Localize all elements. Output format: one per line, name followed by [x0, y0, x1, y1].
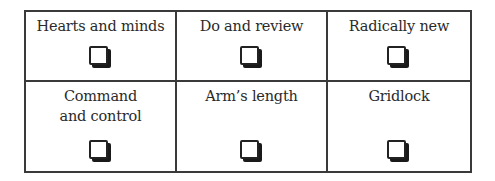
cell-label: Do and review: [177, 16, 326, 36]
cell-label: Command and control: [26, 86, 175, 126]
cell-label: Radically new: [328, 16, 470, 36]
empty-checkbox-icon[interactable]: [387, 46, 406, 65]
cell-arms-length: Arm’s length: [177, 82, 328, 171]
empty-checkbox-icon[interactable]: [387, 140, 406, 159]
cell-radically-new: Radically new: [328, 12, 470, 82]
empty-checkbox-icon[interactable]: [240, 140, 259, 159]
cell-label: Arm’s length: [177, 86, 326, 106]
cell-label: Hearts and minds: [26, 16, 175, 36]
empty-checkbox-icon[interactable]: [89, 140, 108, 159]
cell-gridlock: Gridlock: [328, 82, 470, 171]
cell-command-and-control: Command and control: [26, 82, 177, 171]
empty-checkbox-icon[interactable]: [89, 46, 108, 65]
cell-do-and-review: Do and review: [177, 12, 328, 82]
empty-checkbox-icon[interactable]: [240, 46, 259, 65]
cell-hearts-and-minds: Hearts and minds: [26, 12, 177, 82]
options-grid: Hearts and minds Do and review Radically…: [24, 10, 472, 173]
cell-label: Gridlock: [328, 86, 470, 106]
